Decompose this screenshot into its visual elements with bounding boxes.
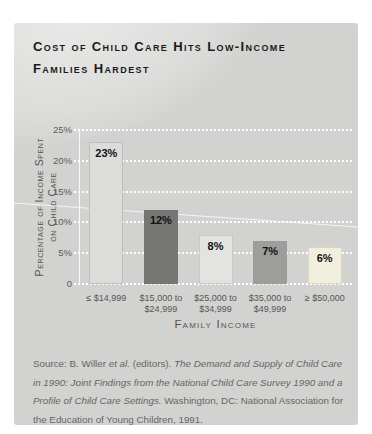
y-tick-label: 20% bbox=[14, 155, 72, 166]
y-tick-label: 15% bbox=[14, 186, 72, 197]
y-tick-label: 10% bbox=[14, 216, 72, 227]
bar-value-label: 23% bbox=[90, 147, 122, 159]
x-axis-title: Family Income bbox=[79, 318, 352, 330]
bar-value-label: 8% bbox=[200, 240, 232, 252]
bar-$25,000 to $34,999: 8% bbox=[199, 235, 233, 284]
source-et-al: et al. bbox=[109, 358, 130, 369]
bar-value-label: 6% bbox=[309, 252, 341, 264]
bar-≤ $14,999: 23% bbox=[89, 142, 123, 284]
bar-$35,000 to $49,999: 7% bbox=[253, 241, 287, 284]
bar-≥ $50,000: 6% bbox=[308, 247, 342, 284]
bar-value-label: 7% bbox=[253, 245, 287, 257]
figure-panel: Cost of Child Care Hits Low-Income Famil… bbox=[14, 23, 358, 425]
y-axis-title-line2: on Child Care bbox=[46, 172, 58, 242]
y-axis-title: Percentage of Income Spent on Child Care bbox=[33, 107, 59, 307]
source-editors: (editors). bbox=[130, 358, 174, 369]
gridline-25% bbox=[74, 129, 352, 131]
source-note: Source: B. Willer et al. (editors). The … bbox=[33, 355, 345, 425]
y-tick-label: 0 bbox=[14, 278, 72, 289]
y-tick-label: 5% bbox=[14, 247, 72, 258]
y-axis-line bbox=[79, 130, 80, 284]
y-tick-label: 25% bbox=[14, 124, 72, 135]
bar-$15,000 to $24,999: 12% bbox=[144, 210, 178, 284]
bar-value-label: 12% bbox=[144, 214, 178, 226]
x-tick-label: ≥ $50,000 bbox=[291, 293, 358, 304]
source-prefix: Source: B. Willer bbox=[33, 358, 109, 369]
